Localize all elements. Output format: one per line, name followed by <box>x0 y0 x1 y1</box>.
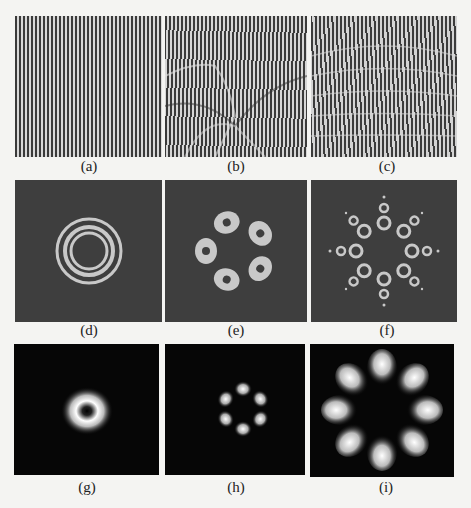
panel-i-label: (i) <box>356 479 416 495</box>
panel-c-fringes <box>311 16 457 157</box>
panel-a-label: (a) <box>59 158 119 174</box>
panel-g-donut <box>14 344 159 475</box>
panel-g-label: (g) <box>57 479 117 495</box>
radial-fringe-overlay <box>311 16 457 157</box>
panel-d-label: (d) <box>59 322 119 338</box>
panel-h-petals <box>165 344 305 475</box>
panel-f-lobes <box>311 180 457 322</box>
panel-e-lobes <box>165 180 307 322</box>
panel-a-fringes <box>15 16 162 157</box>
panel-b-fringes <box>165 16 307 157</box>
panel-e-label: (e) <box>206 322 266 338</box>
fork-dislocation-overlay <box>15 16 162 157</box>
panel-c-label: (c) <box>357 158 417 174</box>
panel-b-label: (b) <box>206 158 266 174</box>
panel-d-rings <box>15 180 162 322</box>
panel-h-label: (h) <box>206 479 266 495</box>
dislocation-overlay <box>165 16 307 157</box>
panel-i-petals <box>310 344 454 477</box>
panel-f-label: (f) <box>357 322 417 338</box>
